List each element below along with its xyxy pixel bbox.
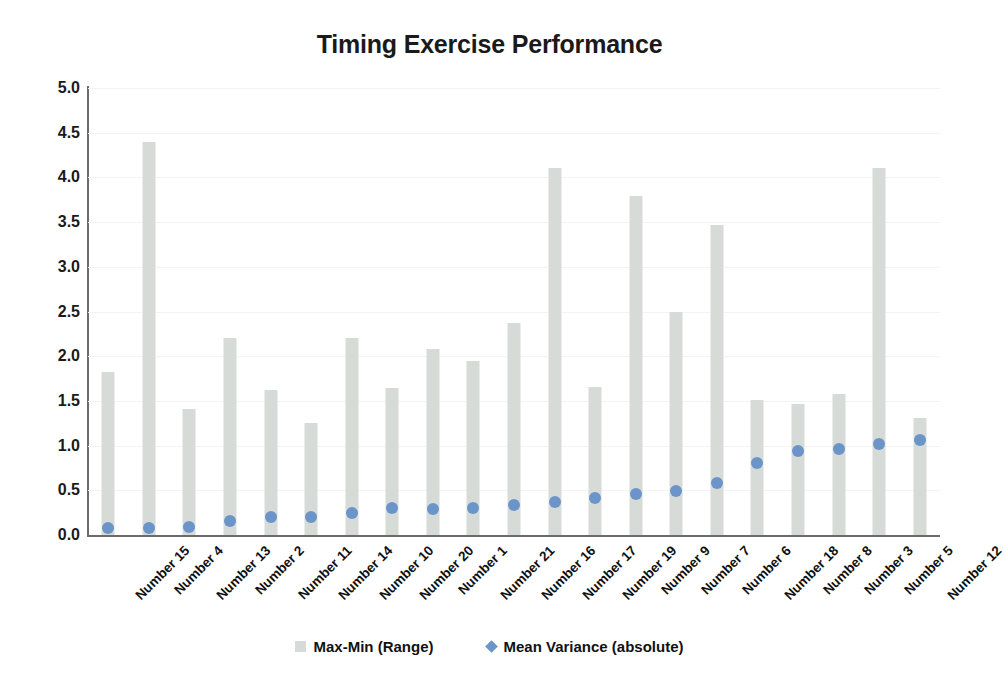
bar-group[interactable] [615,88,656,535]
bar-group[interactable] [372,88,413,535]
legend-diamond-icon [486,640,499,653]
y-axis-tick-label: 0.5 [30,481,80,499]
legend-item[interactable]: Max-Min (Range) [295,638,433,655]
data-point-marker[interactable] [833,443,845,455]
bar-group[interactable] [88,88,129,535]
data-point-marker[interactable] [630,488,642,500]
data-point-marker[interactable] [711,477,723,489]
bar-group[interactable] [575,88,616,535]
data-point-marker[interactable] [792,445,804,457]
data-point-marker[interactable] [549,496,561,508]
x-axis-labels: Number 15Number 4Number 13Number 2Number… [88,537,940,637]
bar[interactable] [629,196,642,535]
bar-group[interactable] [697,88,738,535]
y-axis-tick-label: 2.5 [30,303,80,321]
bar-group[interactable] [859,88,900,535]
bar[interactable] [183,409,196,535]
chart-legend: Max-Min (Range)Mean Variance (absolute) [0,638,979,655]
bar-group[interactable] [494,88,535,535]
data-point-marker[interactable] [143,522,155,534]
data-point-marker[interactable] [873,438,885,450]
bar-group[interactable] [413,88,454,535]
data-point-marker[interactable] [265,511,277,523]
plot-area [88,88,940,535]
bar-group[interactable] [778,88,819,535]
bar[interactable] [670,312,683,536]
chart-title: Timing Exercise Performance [0,30,979,59]
bar-group[interactable] [250,88,291,535]
bar[interactable] [223,338,236,535]
bar[interactable] [589,387,602,535]
y-axis-tick-label: 1.5 [30,392,80,410]
bar[interactable] [345,338,358,535]
bar[interactable] [873,168,886,535]
data-point-marker[interactable] [914,434,926,446]
bar-group[interactable] [129,88,170,535]
bar[interactable] [142,142,155,535]
bar[interactable] [832,394,845,535]
y-axis-tick-label: 4.0 [30,168,80,186]
y-axis-tick-label: 3.0 [30,258,80,276]
bar-group[interactable] [737,88,778,535]
bar[interactable] [791,404,804,535]
bar-group[interactable] [291,88,332,535]
legend-item[interactable]: Mean Variance (absolute) [487,638,683,655]
legend-label: Max-Min (Range) [313,638,433,655]
bar-group[interactable] [656,88,697,535]
bar[interactable] [102,372,115,535]
data-point-marker[interactable] [508,499,520,511]
bar-group[interactable] [331,88,372,535]
bar-group[interactable] [818,88,859,535]
y-axis-tick-label: 5.0 [30,79,80,97]
y-axis-labels: 5.04.54.03.53.02.52.01.51.00.50.0 [30,88,80,535]
bar-group[interactable] [169,88,210,535]
bar-group[interactable] [534,88,575,535]
bar-group[interactable] [453,88,494,535]
y-axis-tick-label: 1.0 [30,437,80,455]
y-axis-tick-label: 3.5 [30,213,80,231]
y-axis-tick-label: 0.0 [30,526,80,544]
bar-group[interactable] [899,88,940,535]
data-point-marker[interactable] [427,503,439,515]
bar-group[interactable] [210,88,251,535]
bar[interactable] [548,168,561,535]
legend-square-icon [295,641,306,652]
legend-label: Mean Variance (absolute) [503,638,683,655]
data-point-marker[interactable] [346,507,358,519]
data-point-marker[interactable] [224,515,236,527]
y-axis-tick-label: 2.0 [30,347,80,365]
y-axis-tick-label: 4.5 [30,124,80,142]
data-point-marker[interactable] [751,457,763,469]
